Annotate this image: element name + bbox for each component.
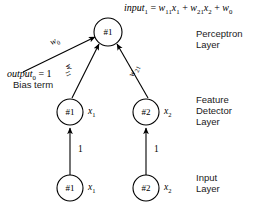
node-var-feature-1: x1 bbox=[88, 106, 95, 119]
node-var-feature-2: x2 bbox=[164, 106, 171, 119]
perceptron-diagram: input1 = w11x1 + w21x2 + w0 #1 #1 x1 #2 … bbox=[0, 0, 254, 212]
layer-label-input-line-2: Layer bbox=[196, 183, 220, 194]
layer-label-perceptron: Perceptron Layer bbox=[196, 28, 242, 50]
node-label-input-2: #2 bbox=[138, 183, 154, 194]
layer-label-input-line-1: Input bbox=[196, 172, 220, 183]
layer-label-feature-detector-line-3: Layer bbox=[196, 116, 232, 127]
layer-label-feature-detector: Feature Detector Layer bbox=[196, 94, 232, 128]
input-formula: input1 = w11x1 + w21x2 + w0 bbox=[124, 2, 232, 16]
node-label-feature-1: #1 bbox=[62, 107, 78, 118]
node-var-input-1: x1 bbox=[88, 182, 95, 195]
node-label-feature-2: #2 bbox=[138, 107, 154, 118]
layer-label-input: Input Layer bbox=[196, 172, 220, 194]
layer-label-perceptron-line-2: Layer bbox=[196, 39, 242, 50]
weight-label-input1-one: 1 bbox=[78, 144, 83, 155]
node-label-input-1: #1 bbox=[62, 183, 78, 194]
node-var-input-2: x2 bbox=[164, 182, 171, 195]
bias-caption: Bias term bbox=[13, 79, 53, 90]
layer-label-perceptron-line-1: Perceptron bbox=[196, 28, 242, 39]
layer-label-feature-detector-line-2: Detector bbox=[196, 105, 232, 116]
layer-label-feature-detector-line-1: Feature bbox=[196, 94, 232, 105]
weight-label-input2-one: 1 bbox=[154, 144, 159, 155]
node-label-perceptron-1: #1 bbox=[100, 27, 116, 38]
